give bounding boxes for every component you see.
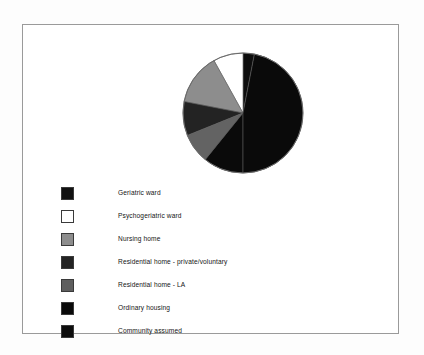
legend-item: Community assumed [61, 320, 381, 343]
pie-slice-group [183, 53, 303, 173]
legend-swatch-geriatric-ward [61, 187, 74, 200]
pie-chart: Geriatric ward Psychogeriatric ward Nurs… [23, 25, 400, 335]
legend-item: Psychogeriatric ward [61, 205, 381, 228]
legend-swatch-ordinary-housing [61, 302, 74, 315]
legend-swatch-residential-home-la [61, 279, 74, 292]
chart-legend: Geriatric ward Psychogeriatric ward Nurs… [61, 182, 381, 343]
chart-frame: Geriatric ward Psychogeriatric ward Nurs… [22, 24, 399, 334]
legend-label-residential-home-la: Residential home - LA [118, 282, 185, 289]
legend-label-community-assumed: Community assumed [118, 328, 182, 335]
legend-label-ordinary-housing: Ordinary housing [118, 305, 170, 312]
legend-item: Nursing home [61, 228, 381, 251]
legend-label-geriatric-ward: Geriatric ward [118, 190, 161, 197]
page-canvas: Geriatric ward Psychogeriatric ward Nurs… [0, 0, 424, 355]
legend-item: Residential home - LA [61, 274, 381, 297]
legend-swatch-nursing-home [61, 233, 74, 246]
legend-swatch-community-assumed [61, 325, 74, 338]
legend-label-psychogeriatric-ward: Psychogeriatric ward [118, 213, 182, 220]
pie-graphic [178, 48, 308, 178]
legend-item: Residential home - private/voluntary [61, 251, 381, 274]
legend-label-residential-home-private-voluntary: Residential home - private/voluntary [118, 259, 228, 266]
legend-item: Ordinary housing [61, 297, 381, 320]
legend-swatch-psychogeriatric-ward [61, 210, 74, 223]
legend-swatch-residential-home-private-voluntary [61, 256, 74, 269]
pie-slice [243, 54, 303, 173]
pie-svg [178, 48, 308, 178]
legend-item: Geriatric ward [61, 182, 381, 205]
legend-label-nursing-home: Nursing home [118, 236, 161, 243]
